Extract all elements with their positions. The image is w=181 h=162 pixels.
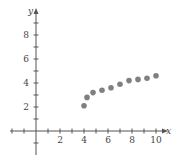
data-point [108, 85, 114, 91]
data-point [84, 95, 90, 101]
x-axis-label: x [166, 126, 171, 136]
x-tick-label: 10 [150, 135, 162, 145]
tick-labels: 2468102468 [23, 30, 162, 145]
y-tick-label: 6 [23, 54, 29, 64]
data-point [144, 75, 150, 81]
x-tick-label: 8 [129, 135, 135, 145]
x-tick-label: 2 [57, 135, 63, 145]
scatter-chart: 2468102468 x y [0, 0, 181, 162]
y-tick-label: 4 [23, 78, 29, 88]
data-point [90, 90, 96, 96]
data-point [81, 103, 87, 109]
y-axis-label: y [27, 6, 34, 16]
x-tick-label: 6 [105, 135, 111, 145]
data-points [81, 73, 159, 109]
data-point [126, 78, 132, 84]
data-point [153, 73, 159, 79]
y-tick-label: 8 [23, 30, 29, 40]
data-point [99, 87, 105, 93]
ticks [12, 23, 156, 143]
y-axis-arrow-icon [34, 8, 39, 14]
data-point [135, 77, 141, 83]
x-tick-label: 4 [81, 135, 87, 145]
y-tick-label: 2 [23, 102, 29, 112]
data-point [117, 81, 123, 87]
